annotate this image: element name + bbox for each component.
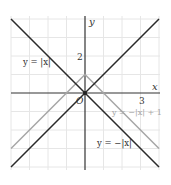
tick-label-y2: 2 xyxy=(77,52,83,62)
curve-label-neg-abs: y = −|x| xyxy=(96,138,132,149)
curve-label-abs: y = |x| xyxy=(22,57,51,68)
y-axis-label: y xyxy=(88,16,95,27)
tick-label-x3: 3 xyxy=(139,96,145,106)
origin-point xyxy=(83,91,87,95)
absolute-value-graph: y x O 3 2 y = |x| y = −|x| + 1 y = −|x| xyxy=(0,0,171,185)
curve-label-neg-abs-plus-one: y = −|x| + 1 xyxy=(111,108,162,117)
origin-label: O xyxy=(76,96,84,106)
x-axis-label: x xyxy=(152,81,158,92)
